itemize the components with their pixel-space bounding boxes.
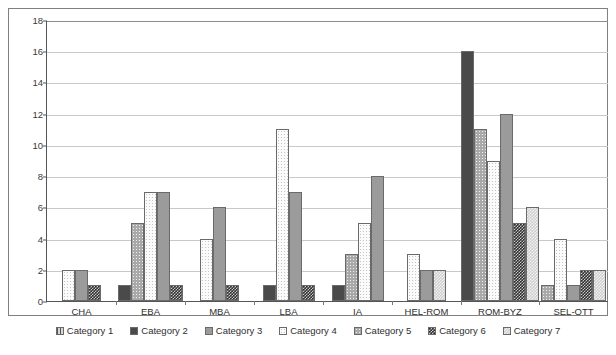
bar [593, 270, 606, 301]
bar [276, 129, 289, 301]
x-axis-tick-mark [254, 301, 255, 305]
bar [157, 192, 170, 301]
bar-group: EBA [116, 21, 185, 301]
bar [200, 239, 213, 301]
legend-swatch-icon [503, 327, 511, 335]
x-axis-tick-label: SEL-OTT [553, 307, 593, 317]
bar [474, 129, 487, 301]
bar-group: LBA [254, 21, 323, 301]
bar [302, 285, 315, 301]
bar [213, 207, 226, 301]
bar [407, 254, 420, 301]
bar [554, 239, 567, 301]
bar-group: MBA [185, 21, 254, 301]
x-axis-tick-label: LBA [280, 307, 298, 317]
x-axis-tick-mark [116, 301, 117, 305]
bar [567, 285, 580, 301]
legend-swatch-icon [56, 327, 64, 335]
bar [75, 270, 88, 301]
bar [420, 270, 433, 301]
legend-item[interactable]: Category 6 [428, 326, 485, 336]
plot-area: 024681012141618 CHAEBAMBALBAIAHEL-ROMROM… [46, 21, 608, 302]
bar [487, 161, 500, 302]
bar [345, 254, 358, 301]
bar [170, 285, 183, 301]
bar [358, 223, 371, 301]
x-axis-tick-label: ROM-BYZ [478, 307, 522, 317]
legend-item[interactable]: Category 1 [56, 326, 113, 336]
legend-item[interactable]: Category 4 [279, 326, 336, 336]
bar [263, 285, 276, 301]
y-axis-tick-label: 18 [32, 16, 43, 26]
x-axis-tick-label: IA [353, 307, 362, 317]
legend-label: Category 4 [290, 326, 336, 336]
legend-label: Category 5 [365, 326, 411, 336]
bar-group: IA [323, 21, 392, 301]
bar [332, 285, 345, 301]
x-axis-tick-mark [392, 301, 393, 305]
bar [461, 51, 474, 301]
chart-frame: 024681012141618 CHAEBAMBALBAIAHEL-ROMROM… [8, 8, 608, 316]
x-axis-tick-mark [539, 301, 540, 305]
bar [118, 285, 131, 301]
x-axis-tick-label: EBA [141, 307, 160, 317]
legend-label: Category 6 [439, 326, 485, 336]
legend-swatch-icon [279, 327, 287, 335]
y-axis-tick-label: 16 [32, 47, 43, 57]
legend-label: Category 3 [216, 326, 262, 336]
bar [541, 285, 554, 301]
legend-swatch-icon [428, 327, 436, 335]
bar [88, 285, 101, 301]
y-axis-tick-label: 12 [32, 110, 43, 120]
x-axis-tick-mark [323, 301, 324, 305]
y-axis-tick-label: 10 [32, 141, 43, 151]
legend-swatch-icon [205, 327, 213, 335]
bar [433, 270, 446, 301]
bar [500, 114, 513, 301]
bar [289, 192, 302, 301]
x-axis-tick-label: CHA [71, 307, 91, 317]
bar-chart: 024681012141618 CHAEBAMBALBAIAHEL-ROMROM… [0, 0, 616, 355]
bar [580, 270, 593, 301]
x-axis-tick-mark [461, 301, 462, 305]
bar [131, 223, 144, 301]
bar [226, 285, 239, 301]
chart-legend: Category 1Category 2Category 3Category 4… [8, 326, 608, 336]
legend-label: Category 7 [514, 326, 560, 336]
legend-label: Category 2 [141, 326, 187, 336]
bar-groups: CHAEBAMBALBAIAHEL-ROMROM-BYZSEL-OTT [47, 21, 608, 301]
bar [513, 223, 526, 301]
bar-group: CHA [47, 21, 116, 301]
legend-item[interactable]: Category 7 [503, 326, 560, 336]
x-axis-tick-label: MBA [209, 307, 230, 317]
bar-group: SEL-OTT [539, 21, 608, 301]
legend-label: Category 1 [67, 326, 113, 336]
bar [371, 176, 384, 301]
legend-item[interactable]: Category 3 [205, 326, 262, 336]
legend-item[interactable]: Category 2 [130, 326, 187, 336]
x-axis-tick-mark [185, 301, 186, 305]
x-axis-tick-label: HEL-ROM [405, 307, 449, 317]
y-axis-tick-mark [43, 302, 47, 303]
legend-item[interactable]: Category 5 [354, 326, 411, 336]
bar-group: ROM-BYZ [461, 21, 539, 301]
legend-swatch-icon [354, 327, 362, 335]
legend-swatch-icon [130, 327, 138, 335]
bar [144, 192, 157, 301]
bar [62, 270, 75, 301]
y-axis-tick-label: 14 [32, 79, 43, 89]
bar-group: HEL-ROM [392, 21, 461, 301]
bar [526, 207, 539, 301]
